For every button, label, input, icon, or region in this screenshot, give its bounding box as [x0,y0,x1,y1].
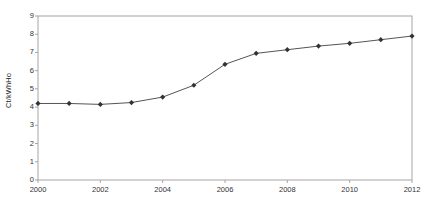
data-point-marker [254,51,259,56]
data-point-marker [409,33,414,38]
data-series-line [38,36,412,104]
data-point-marker [316,43,321,48]
data-point-marker [98,102,103,107]
line-chart: Ct/kWhHo 9876543210 20002002200420062008… [0,0,422,210]
data-point-marker [129,100,134,105]
plot-area [0,0,422,210]
data-point-marker [347,41,352,46]
data-point-marker [285,47,290,52]
data-point-marker [35,101,40,106]
axis-frame [38,16,412,180]
axis-tick-marks [35,16,412,183]
data-point-markers [35,33,414,107]
data-point-marker [378,37,383,42]
data-point-marker [67,101,72,106]
data-point-marker [160,94,165,99]
